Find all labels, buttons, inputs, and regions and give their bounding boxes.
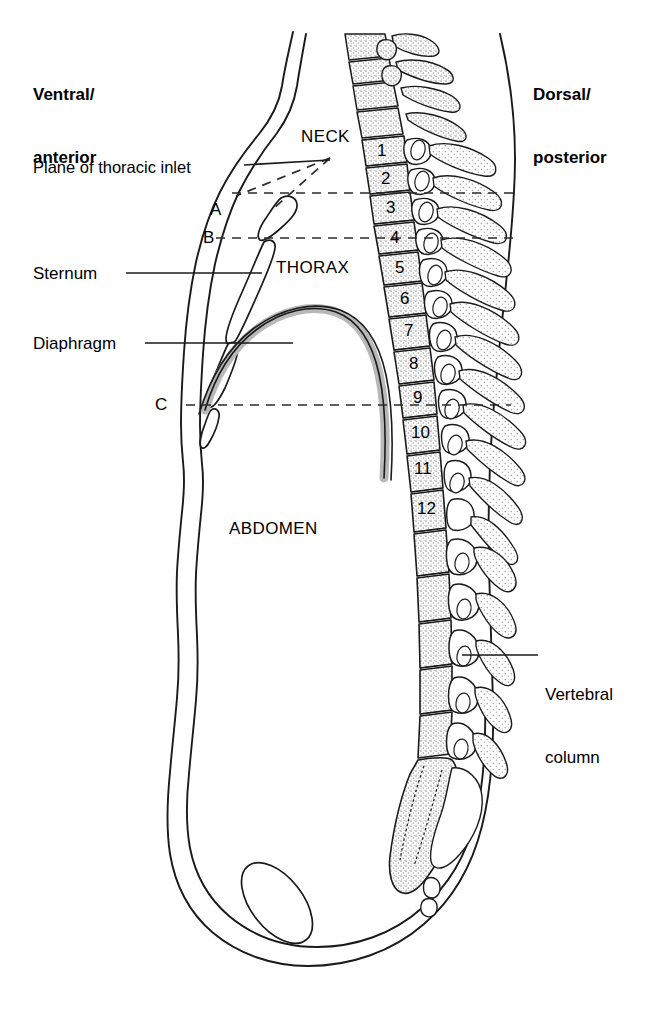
sternum-shape [200,196,297,448]
vertebra-number-6: 6 [400,289,409,309]
vertebra-number-10: 10 [411,423,430,443]
label-vertebral-column-line1: Vertebral [545,685,613,706]
vertebra-number-7: 7 [404,321,413,341]
vertebra-number-3: 3 [386,198,395,218]
figure-canvas: Ventral/ anterior Dorsal/ posterior Plan… [0,0,664,1030]
label-diaphragm: Diaphragm [33,334,116,355]
vertebra-number-4: 4 [390,228,399,248]
vertebra-number-9: 9 [413,388,422,408]
region-label-abdomen: ABDOMEN [229,519,318,540]
region-label-thorax: THORAX [276,258,349,279]
bladder-shape [228,850,327,956]
orientation-dorsal-line2: posterior [533,148,607,169]
orientation-label-dorsal: Dorsal/ posterior [533,44,607,210]
label-vertebral-column: Vertebral column [545,644,613,810]
plane-marker-b: B [203,228,214,249]
orientation-label-ventral: Ventral/ anterior [33,44,96,210]
region-label-neck: NECK [301,127,350,148]
vertebra-number-11: 11 [414,459,432,479]
thoracic-inlet-oblique-lower [236,158,330,196]
orientation-ventral-line1: Ventral/ [33,85,96,106]
orientation-dorsal-line1: Dorsal/ [533,85,607,106]
vertebra-number-8: 8 [409,354,418,374]
vertebra-number-5: 5 [395,258,404,278]
label-vertebral-column-line2: column [545,748,613,769]
label-plane-of-thoracic-inlet: Plane of thoracic inlet [33,157,191,177]
vertebra-number-1: 1 [377,141,386,161]
vertebra-number-12: 12 [417,499,436,519]
vertebra-number-2: 2 [381,169,390,189]
plane-marker-a: A [210,200,221,221]
thoracic-inlet-oblique-upper [272,158,330,210]
label-sternum: Sternum [33,264,97,285]
plane-marker-c: C [155,395,167,416]
vertebral-column [345,34,525,917]
